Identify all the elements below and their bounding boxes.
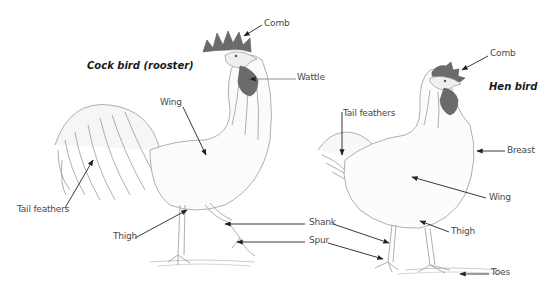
label-hen-thigh: Thigh (451, 226, 475, 236)
illustration-canvas (0, 0, 543, 297)
rooster-tail (55, 105, 160, 201)
rooster-title: Cock bird (rooster) (87, 60, 194, 72)
label-rooster-comb: Comb (264, 18, 289, 28)
label-rooster-thigh: Thigh (113, 231, 137, 241)
rooster-leg-back (205, 205, 255, 256)
hen-illustration (318, 69, 505, 274)
label-hen-comb: Comb (490, 48, 515, 58)
arrow-spur-hen (328, 243, 383, 259)
label-hen-breast: Breast (507, 145, 535, 155)
label-rooster-wattle: Wattle (297, 72, 325, 82)
label-hen-tail-feathers: Tail feathers (343, 108, 395, 118)
arrow-shank-hen (333, 224, 389, 243)
label-spur: Spur (309, 235, 329, 245)
label-hen-wing: Wing (489, 192, 511, 202)
label-rooster-tail-feathers: Tail feathers (17, 204, 69, 214)
hen-leg-right (418, 228, 450, 273)
label-hen-toes: Toes (491, 267, 510, 277)
chicken-anatomy-diagram: Cock bird (rooster) Hen bird Comb Wattle… (0, 0, 543, 297)
label-shank: Shank (309, 217, 336, 227)
hen-title: Hen bird (489, 81, 537, 93)
arrow-hen-comb (462, 56, 488, 70)
arrow-rooster-comb (244, 25, 262, 36)
hen-body (344, 69, 474, 228)
hen-leg-left (375, 225, 398, 272)
rooster-comb (203, 31, 251, 52)
label-rooster-wing: Wing (160, 97, 182, 107)
arrow-rooster-tail (65, 160, 93, 208)
